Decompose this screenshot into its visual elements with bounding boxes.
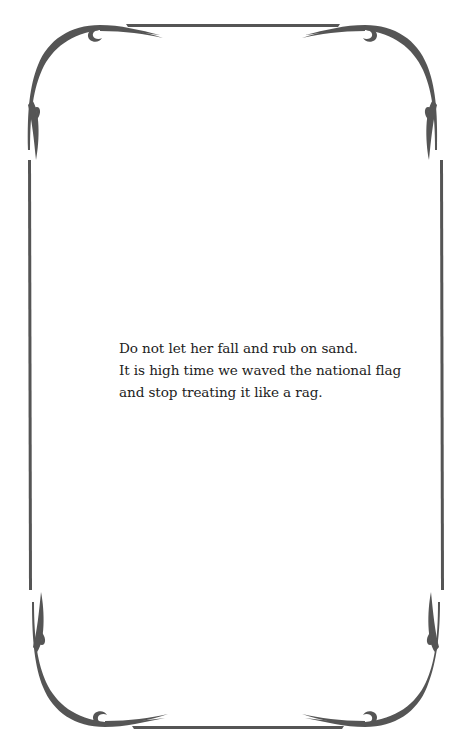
page: Do not let her fall and rub on sand. It … bbox=[0, 0, 465, 753]
poem-line: It is high time we waved the national fl… bbox=[119, 359, 401, 381]
left-bar bbox=[28, 160, 32, 590]
bottom-right-flourish bbox=[305, 602, 440, 727]
poem-line: Do not let her fall and rub on sand. bbox=[119, 337, 401, 359]
top-bar bbox=[126, 24, 340, 27]
bottom-left-flourish bbox=[32, 602, 165, 727]
poem-text: Do not let her fall and rub on sand. It … bbox=[119, 337, 401, 403]
top-right-flourish bbox=[305, 25, 437, 150]
bottom-bar bbox=[132, 726, 344, 729]
poem-line: and stop treating it like a rag. bbox=[119, 381, 401, 403]
top-left-flourish bbox=[28, 25, 160, 150]
right-bar bbox=[440, 160, 444, 590]
